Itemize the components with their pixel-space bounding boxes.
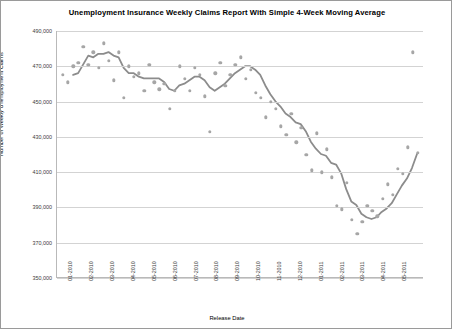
y-axis-tick-label: 390,000: [8, 204, 52, 210]
x-axis-tick-label: 01-2011: [318, 262, 324, 281]
x-axis-label: Release Date: [1, 315, 452, 321]
gridline: [57, 243, 423, 244]
x-axis-tick-label: 03-2011: [359, 262, 365, 281]
gridline: [57, 102, 423, 103]
gridline: [57, 66, 423, 67]
x-axis-tick-label: 05-2010: [151, 261, 157, 281]
x-axis-tick-label: 11-2010: [276, 262, 282, 281]
gridline: [57, 207, 423, 208]
chart-title: Unemployment Insurance Weekly Claims Rep…: [1, 8, 452, 17]
x-axis-tick-label: 07-2010: [193, 261, 199, 281]
y-axis-tick-label: 350,000: [8, 275, 52, 281]
chart-container: Unemployment Insurance Weekly Claims Rep…: [0, 0, 452, 329]
plot-area: [56, 31, 423, 278]
x-axis-tick-label: 02-2011: [339, 262, 345, 281]
y-axis-tick-label: 470,000: [8, 63, 52, 69]
gridline: [57, 137, 423, 138]
x-axis-tick-label: 01-2010: [67, 261, 73, 281]
x-axis-tick-label: 03-2010: [109, 261, 115, 281]
y-axis-label: Number of Weekly Unemployment Claims: [0, 52, 4, 156]
moving-average-line: [57, 31, 423, 277]
x-axis-tick-label: 08-2010: [213, 261, 219, 281]
x-axis-tick-label: 10-2010: [255, 261, 261, 281]
x-axis-tick-label: 02-2010: [88, 261, 94, 281]
gridline: [57, 31, 423, 32]
y-axis-tick-label: 490,000: [8, 28, 52, 34]
x-axis-tick-label: 06-2010: [172, 261, 178, 281]
y-axis-tick-label: 430,000: [8, 134, 52, 140]
y-axis-tick-label: 370,000: [8, 240, 52, 246]
gridline: [57, 172, 423, 173]
x-axis-tick-label: 04-2011: [380, 262, 386, 281]
y-axis-tick-label: 410,000: [8, 169, 52, 175]
x-axis-tick-label: 04-2010: [130, 261, 136, 281]
x-axis-tick-label: 09-2010: [234, 261, 240, 281]
x-axis-tick-label: 12-2010: [297, 261, 303, 281]
y-axis-tick-label: 450,000: [8, 99, 52, 105]
x-axis-tick-label: 05-2011: [401, 262, 407, 281]
